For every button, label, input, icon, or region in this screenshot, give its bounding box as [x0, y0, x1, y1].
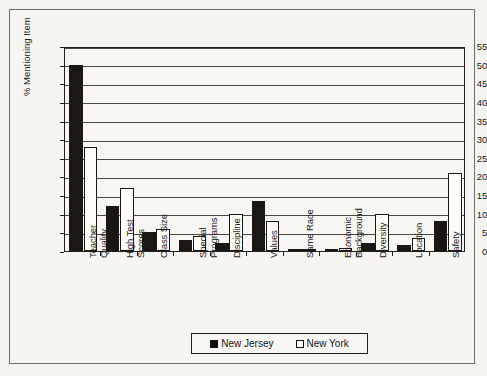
- gridline-45: [65, 85, 464, 86]
- gridline-20: [65, 178, 464, 179]
- y-tick-mark-0: [60, 252, 64, 253]
- y-axis-label: % Mentioning Item: [21, 0, 32, 96]
- chart-legend: New Jersey New York: [191, 333, 368, 354]
- x-axis-label-line: Special: [198, 218, 209, 258]
- x-axis-label-safety: Safety: [451, 232, 462, 258]
- x-axis-label-diversity: Diversity: [378, 222, 389, 258]
- bar-values-new-jersey: [252, 201, 266, 251]
- x-tick-mark-9: [392, 252, 393, 256]
- legend-label-new-york: New York: [307, 338, 349, 349]
- x-tick-mark-6: [283, 252, 284, 256]
- legend-entry-new-jersey: New Jersey: [210, 338, 273, 349]
- legend-swatch-filled-square-icon: [210, 340, 218, 348]
- x-axis-label-line: Programs: [208, 218, 219, 258]
- gridline-40: [65, 103, 464, 104]
- x-axis-label-same-race: Same Race: [305, 209, 316, 258]
- bar-safety-new-jersey: [434, 221, 448, 251]
- x-axis-label-line: Values: [269, 230, 280, 258]
- bar-special-programs-new-jersey: [179, 240, 193, 251]
- x-axis-label-high-test-scores: High TestScores: [125, 219, 146, 258]
- x-axis-label-line: Same Race: [305, 209, 316, 258]
- bar-chart: % Mentioning Item 0510152025303540455055…: [0, 0, 487, 376]
- gridline-55: [65, 48, 464, 49]
- x-axis-label-line: Scores: [135, 219, 146, 258]
- bar-economic-background-new-jersey: [325, 249, 339, 251]
- x-axis-label-economic-background: EconomicBackground: [343, 208, 364, 258]
- bar-location-new-jersey: [397, 245, 411, 251]
- x-axis-label-line: Safety: [451, 232, 462, 258]
- gridline-50: [65, 66, 464, 67]
- x-axis-label-line: Discipline: [232, 218, 243, 258]
- x-axis-label-discipline: Discipline: [232, 218, 243, 258]
- legend-label-new-jersey: New Jersey: [221, 338, 273, 349]
- x-tick-mark-3: [173, 252, 174, 256]
- x-axis-label-line: High Test: [125, 219, 136, 258]
- x-tick-mark-10: [429, 252, 430, 256]
- x-axis-label-line: Location: [414, 223, 425, 258]
- chart-screenshot: % Mentioning Item 0510152025303540455055…: [0, 0, 487, 376]
- x-axis-label-line: Class Size: [159, 214, 170, 258]
- x-axis-label-teacher-quality: TeacherQuality: [88, 225, 109, 258]
- x-tick-mark-7: [319, 252, 320, 256]
- x-axis-label-line: Diversity: [378, 222, 389, 258]
- legend-swatch-outlined-square-icon: [296, 340, 304, 348]
- x-axis-label-values: Values: [269, 230, 280, 258]
- x-axis-label-line: Quality: [99, 225, 110, 258]
- x-tick-mark-5: [246, 252, 247, 256]
- legend-entry-new-york: New York: [296, 338, 349, 349]
- x-axis-label-location: Location: [414, 223, 425, 258]
- gridline-30: [65, 141, 464, 142]
- x-axis-label-special-programs: SpecialPrograms: [198, 218, 219, 258]
- bar-same-race-new-jersey: [288, 249, 302, 251]
- x-axis-label-class-size: Class Size: [159, 214, 170, 258]
- gridline-25: [65, 159, 464, 160]
- gridline-35: [65, 122, 464, 123]
- bar-teacher-quality-new-jersey: [69, 65, 83, 251]
- x-axis-label-line: Background: [354, 208, 365, 258]
